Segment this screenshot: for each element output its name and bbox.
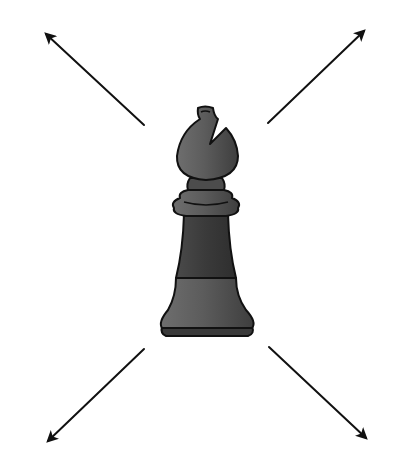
bishop-collar-ring — [173, 190, 239, 216]
arrow-down-left-icon — [48, 349, 144, 441]
arrow-down-right-icon — [269, 347, 366, 438]
bishop-movement-diagram — [0, 0, 411, 472]
bishop-head — [177, 107, 238, 181]
arrow-up-left-icon — [46, 34, 144, 125]
bishop-lower-body — [161, 278, 254, 328]
arrow-up-right-icon — [268, 31, 364, 123]
bishop-shaft — [176, 214, 236, 278]
bishop-piece-icon — [161, 107, 254, 337]
